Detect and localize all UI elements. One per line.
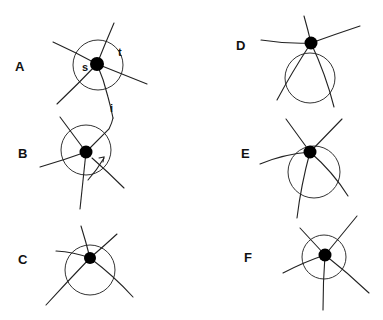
- line-d-4: [311, 43, 334, 107]
- line-e-5: [310, 152, 348, 196]
- panel-b: B: [18, 117, 124, 209]
- line-f-5: [325, 255, 369, 293]
- label-t: t: [118, 46, 122, 58]
- label-s: s: [82, 61, 88, 73]
- line-b-4: [80, 152, 86, 209]
- line-b-1: [60, 117, 86, 152]
- panel-label-a: A: [15, 59, 25, 74]
- panel-label-b: B: [18, 146, 27, 161]
- panel-d: D: [236, 16, 360, 107]
- panel-e: E: [241, 119, 348, 218]
- node-dot-f: [319, 249, 332, 262]
- label-i: i: [110, 102, 113, 114]
- line-e-3: [260, 152, 310, 164]
- panel-label-c: C: [18, 252, 28, 267]
- node-dot-e: [304, 146, 317, 159]
- line-e-4: [297, 152, 310, 218]
- line-f-4: [323, 255, 325, 310]
- line-b-2: [86, 118, 113, 152]
- line-e-2: [310, 119, 342, 152]
- line-d-3: [277, 43, 311, 100]
- panel-label-d: D: [236, 38, 245, 53]
- figure-canvas: A s t i B C D: [0, 0, 383, 320]
- panel-f: F: [244, 216, 369, 310]
- panel-label-f: F: [244, 250, 252, 265]
- node-dot-d: [305, 37, 318, 50]
- node-dot-c: [84, 252, 96, 264]
- panel-label-e: E: [241, 146, 250, 161]
- panel-c: C: [18, 226, 133, 305]
- line-c-3: [46, 234, 117, 305]
- panel-a: A s t i: [15, 23, 147, 118]
- line-c-4: [90, 258, 133, 297]
- circle-d: [285, 53, 335, 103]
- node-dot-b: [80, 146, 93, 159]
- line-b-3: [40, 152, 86, 167]
- node-dot-a: [90, 57, 104, 71]
- line-f-3: [283, 255, 325, 273]
